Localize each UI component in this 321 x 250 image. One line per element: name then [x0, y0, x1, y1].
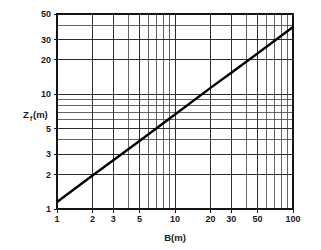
x-tick-label-20: 20 — [206, 214, 216, 224]
chart-figure: 123510203050100 123510203050 B(m) Z f (m… — [0, 0, 321, 250]
x-tick-label-2: 2 — [90, 214, 95, 224]
x-tick-label-100: 100 — [285, 214, 300, 224]
x-tick-label-30: 30 — [226, 214, 236, 224]
y-tick-label-1: 1 — [46, 204, 51, 214]
x-tick-label-50: 50 — [252, 214, 262, 224]
x-tick-label-3: 3 — [111, 214, 116, 224]
x-tick-label-1: 1 — [54, 214, 59, 224]
y-axis-title-unit: (m) — [33, 109, 48, 120]
y-tick-label-30: 30 — [41, 35, 51, 45]
y-axis-title-group: Z f (m) — [23, 109, 48, 122]
y-axis-title: Z — [23, 109, 29, 120]
x-tick-label-5: 5 — [137, 214, 142, 224]
log-log-chart: 123510203050100 123510203050 B(m) Z f (m… — [0, 0, 321, 250]
x-axis-title: B(m) — [164, 232, 186, 243]
y-tick-label-3: 3 — [46, 149, 51, 159]
y-tick-label-2: 2 — [46, 170, 51, 180]
x-tick-label-10: 10 — [170, 214, 180, 224]
x-axis-tick-labels: 123510203050100 — [54, 214, 300, 224]
x-axis-tick-marks — [57, 209, 293, 213]
y-tick-label-20: 20 — [41, 55, 51, 65]
y-tick-label-10: 10 — [41, 89, 51, 99]
y-tick-label-50: 50 — [41, 9, 51, 19]
y-tick-label-5: 5 — [46, 124, 51, 134]
